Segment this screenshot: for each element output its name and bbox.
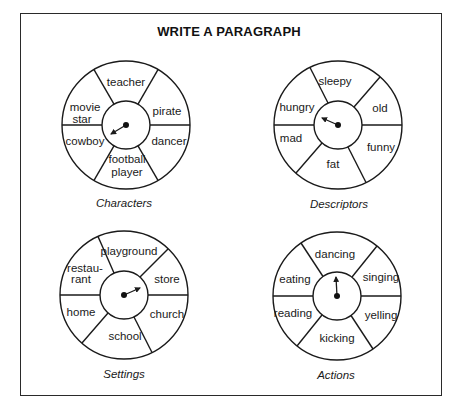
segment-lower-right: church	[150, 308, 185, 320]
segment-upper-left-line2: star	[72, 113, 91, 125]
segment-upper-right: singing	[363, 271, 399, 283]
segment-lower-left: mad	[280, 132, 302, 144]
segment-bottom: school	[108, 330, 141, 342]
spinner-pivot	[123, 122, 129, 128]
caption-settings: Settings	[103, 368, 145, 380]
wheel-characters[interactable]: teacher pirate dancer football player co…	[62, 61, 190, 189]
segment-lower-left: reading	[274, 307, 312, 319]
segment-upper-left-line2: rant	[71, 273, 92, 285]
segment-upper-right: store	[154, 273, 180, 285]
segment-lower-left: cowboy	[66, 135, 105, 147]
segment-lower-right: funny	[367, 141, 395, 153]
segment-upper-left: hungry	[279, 101, 314, 113]
segment-top: teacher	[107, 76, 146, 88]
wheel-descriptors[interactable]: sleepy old funny fat mad hungry	[274, 61, 402, 189]
segment-bottom: kicking	[319, 332, 354, 344]
segment-upper-left-line1: movie	[70, 101, 101, 113]
segment-bottom-line2: player	[111, 166, 142, 178]
segment-top: playground	[101, 245, 158, 257]
caption-actions: Actions	[316, 369, 355, 381]
segment-upper-right: pirate	[153, 105, 182, 117]
caption-characters: Characters	[96, 197, 152, 209]
segment-bottom-line1: football	[108, 153, 145, 165]
segment-top: sleepy	[318, 75, 351, 87]
segment-lower-right: yelling	[365, 309, 398, 321]
wheel-settings[interactable]: playground store church school home rest…	[60, 231, 188, 359]
spinner-pivot	[121, 292, 127, 298]
caption-descriptors: Descriptors	[310, 198, 368, 210]
segment-top: dancing	[315, 248, 355, 260]
spinner-pivot	[334, 293, 340, 299]
spinner-pivot	[335, 122, 341, 128]
segment-upper-right: old	[372, 102, 387, 114]
wheel-actions[interactable]: dancing singing yelling kicking reading …	[273, 232, 401, 360]
segment-lower-right: dancer	[151, 135, 186, 147]
segment-lower-left: home	[67, 306, 96, 318]
segment-bottom: fat	[327, 158, 341, 170]
spinner-wheels: teacher pirate dancer football player co…	[0, 0, 458, 409]
segment-upper-left: eating	[279, 273, 310, 285]
